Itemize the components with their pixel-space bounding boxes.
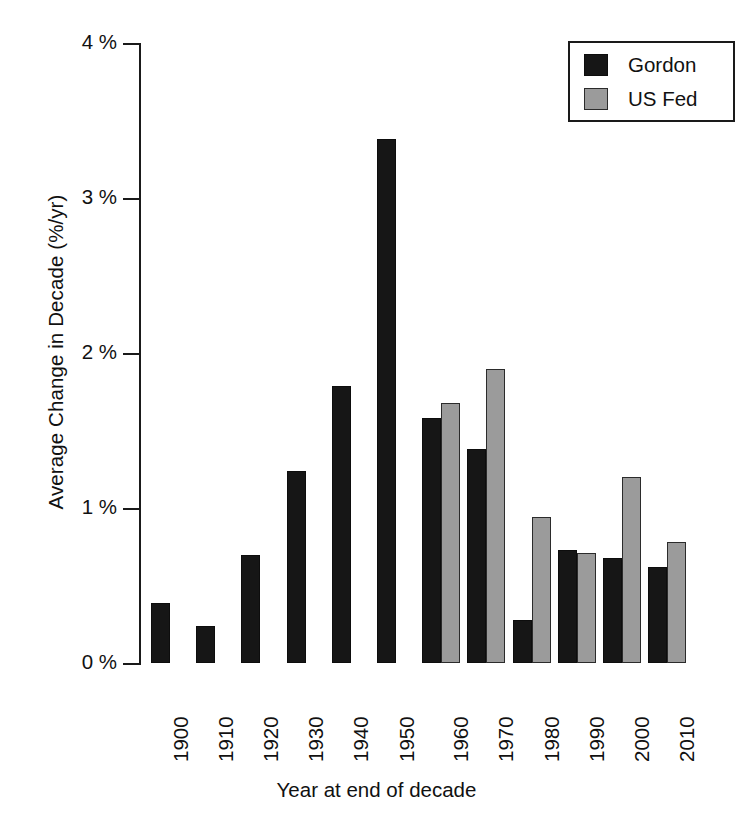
legend-entry-us-fed: US Fed <box>584 84 698 114</box>
legend-entry-gordon: Gordon <box>584 50 696 80</box>
y-tick-mark <box>123 663 139 665</box>
x-tick-label-1900: 1900 <box>169 716 193 762</box>
bar-gordon-2010 <box>648 567 667 663</box>
x-tick-label-1930: 1930 <box>304 716 328 762</box>
bar-gordon-1950 <box>377 139 396 663</box>
x-tick-label-1990: 1990 <box>585 716 609 762</box>
bar-us-fed-1990 <box>577 553 596 663</box>
y-tick-label: 1 % <box>82 495 117 519</box>
bar-chart-figure: Average Change in Decade (%/yr) 4 %3 %2 … <box>0 0 753 820</box>
bar-us-fed-1980 <box>532 517 551 663</box>
x-axis-title: Year at end of decade <box>0 778 753 802</box>
y-tick-label: 4 % <box>82 30 117 54</box>
y-tick-label: 0 % <box>82 650 117 674</box>
bar-gordon-2000 <box>603 558 622 663</box>
y-tick-mark <box>123 353 139 355</box>
y-tick-label: 3 % <box>82 185 117 209</box>
bar-gordon-1900 <box>151 603 170 663</box>
y-tick-label: 2 % <box>82 340 117 364</box>
chart-legend: Gordon US Fed <box>568 41 735 122</box>
x-tick-label-1960: 1960 <box>449 716 473 762</box>
bar-us-fed-2010 <box>667 542 686 663</box>
bar-gordon-1940 <box>332 386 351 663</box>
legend-label-us-fed: US Fed <box>628 87 698 111</box>
bar-us-fed-1970 <box>486 369 505 664</box>
x-tick-label-1940: 1940 <box>349 716 373 762</box>
x-tick-label-1910: 1910 <box>214 716 238 762</box>
plot-area <box>139 43 735 663</box>
y-tick-mark <box>123 198 139 200</box>
us-fed-swatch-icon <box>584 88 608 110</box>
bar-gordon-1930 <box>287 471 306 663</box>
bar-gordon-1960 <box>422 418 441 663</box>
bar-gordon-1910 <box>196 626 215 663</box>
bar-gordon-1990 <box>558 550 577 663</box>
bar-gordon-1980 <box>513 620 532 663</box>
x-tick-label-2010: 2010 <box>675 716 699 762</box>
bar-us-fed-2000 <box>622 477 641 663</box>
bar-gordon-1970 <box>467 449 486 663</box>
y-axis-title: Average Change in Decade (%/yr) <box>44 72 68 632</box>
x-tick-label-1980: 1980 <box>540 716 564 762</box>
legend-label-gordon: Gordon <box>628 53 696 77</box>
gordon-swatch-icon <box>584 54 608 76</box>
y-tick-mark <box>123 508 139 510</box>
x-tick-label-2000: 2000 <box>630 716 654 762</box>
x-tick-label-1920: 1920 <box>259 716 283 762</box>
x-tick-label-1950: 1950 <box>395 716 419 762</box>
x-tick-label-1970: 1970 <box>494 716 518 762</box>
y-tick-mark <box>123 43 139 45</box>
bar-gordon-1920 <box>241 555 260 664</box>
bar-us-fed-1960 <box>441 403 460 663</box>
